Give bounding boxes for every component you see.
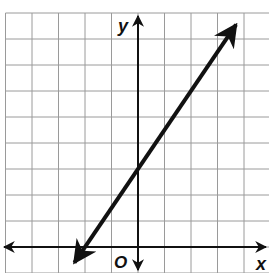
plotted-line	[74, 25, 236, 263]
origin-label: O	[114, 253, 127, 272]
coordinate-plane: y x O	[0, 0, 269, 273]
x-axis-label: x	[255, 254, 267, 273]
y-axis-label: y	[117, 16, 129, 36]
